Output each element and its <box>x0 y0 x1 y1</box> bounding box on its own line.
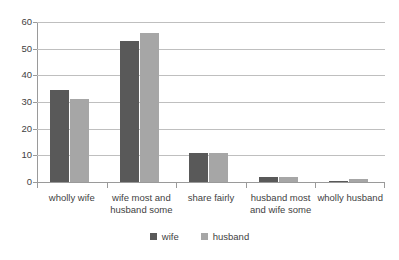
y-tick-label-40: 40 <box>2 70 32 80</box>
x-axis-label: wife most and husband some <box>103 192 181 216</box>
bar-group <box>315 22 385 182</box>
plot-area <box>37 22 385 182</box>
x-tick-mark <box>37 183 38 188</box>
legend-label: wife <box>162 232 179 242</box>
bar-group <box>37 22 107 182</box>
bar-wife <box>120 41 139 182</box>
bar-wife <box>50 90 69 182</box>
x-tick-mark <box>107 183 108 188</box>
y-tick-label-20: 20 <box>2 124 32 134</box>
x-axis-category-labels: wholly wifewife most and husband somesha… <box>37 192 385 228</box>
bar-wife <box>259 177 278 182</box>
legend-swatch-icon <box>150 233 157 240</box>
bar-husband <box>209 153 228 182</box>
x-tick-mark <box>176 183 177 188</box>
y-axis-tick-labels: 0102030405060 <box>0 0 32 260</box>
y-tick-label-10: 10 <box>2 150 32 160</box>
y-tick-label-0: 0 <box>2 177 32 187</box>
x-tick-mark <box>315 183 316 188</box>
legend-swatch-icon <box>201 233 208 240</box>
x-axis-label: share fairly <box>172 192 250 204</box>
bar-group <box>246 22 316 182</box>
bar-wife <box>329 181 348 182</box>
bar-husband <box>140 33 159 182</box>
bar-husband <box>70 99 89 182</box>
bar-husband <box>349 179 368 182</box>
legend-item-husband[interactable]: husband <box>201 232 249 242</box>
y-tick-label-30: 30 <box>2 97 32 107</box>
x-axis-label: wholly wife <box>33 192 111 204</box>
bar-group <box>176 22 246 182</box>
chart-legend: wifehusband <box>0 232 399 242</box>
x-axis-label: wholly husband <box>311 192 389 204</box>
legend-label: husband <box>213 232 249 242</box>
x-axis-label: husband most and wife some <box>242 192 320 216</box>
bar-group <box>107 22 177 182</box>
y-tick-label-50: 50 <box>2 44 32 54</box>
bar-wife <box>189 153 208 182</box>
y-tick-label-60: 60 <box>2 17 32 27</box>
bar-chart: 0102030405060 wholly wifewife most and h… <box>0 0 399 260</box>
x-axis-tick-marks <box>37 183 385 188</box>
x-tick-mark <box>384 183 385 188</box>
legend-item-wife[interactable]: wife <box>150 232 179 242</box>
x-tick-mark <box>246 183 247 188</box>
bar-husband <box>279 177 298 182</box>
